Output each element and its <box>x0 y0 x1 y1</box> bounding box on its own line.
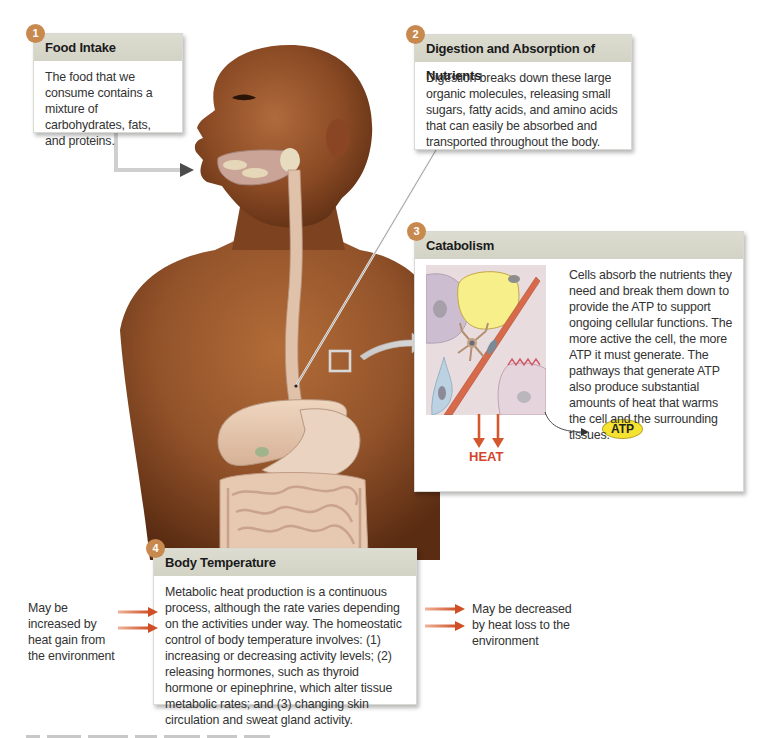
heat-gain-note: May be increased by heat gain from the e… <box>28 600 123 664</box>
step-badge-1: 1 <box>26 24 45 43</box>
body-temperature-body: Metabolic heat production is a continuou… <box>154 576 416 736</box>
figure-caption-clipped <box>26 733 326 738</box>
heat-label: HEAT <box>469 449 503 464</box>
heat-gain-arrow-2 <box>118 623 158 633</box>
heat-loss-arrow-1 <box>425 604 465 614</box>
step-badge-4: 4 <box>146 539 165 558</box>
metabolism-diagram: 1 Food Intake The food that we consume c… <box>0 0 769 738</box>
catabolism-body: Cells absorb the nutrients they need and… <box>557 259 743 443</box>
body-temperature-title: Body Temperature <box>154 549 416 576</box>
step-badge-2: 2 <box>406 25 425 44</box>
cells-illustration <box>426 265 546 415</box>
step-badge-3: 3 <box>407 222 426 241</box>
catabolism-title: Catabolism <box>415 232 743 259</box>
heat-arrows-icon <box>471 414 511 450</box>
digestion-body: Digestion breaks down these large organi… <box>415 62 631 158</box>
heat-loss-arrow-2 <box>425 621 465 631</box>
catabolism-panel: Catabolism HEAT <box>414 231 744 492</box>
food-intake-body: The food that we consume contains a mixt… <box>34 61 182 157</box>
food-intake-panel: Food Intake The food that we consume con… <box>33 33 183 133</box>
heat-loss-note: May be decreased by heat loss to the env… <box>472 601 572 649</box>
digestion-title: Digestion and Absorption of Nutrients <box>415 35 631 62</box>
digestion-panel: Digestion and Absorption of Nutrients Di… <box>414 34 632 150</box>
food-intake-title: Food Intake <box>34 34 182 61</box>
heat-gain-arrow-1 <box>118 607 158 617</box>
body-temperature-panel: Body Temperature Metabolic heat producti… <box>153 548 417 705</box>
